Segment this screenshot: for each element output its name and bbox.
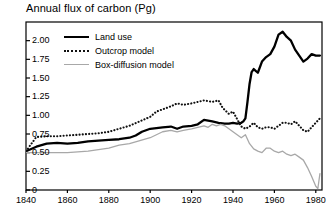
x-tick-label: 1860 xyxy=(47,196,87,205)
x-tick-label: 1900 xyxy=(130,196,170,205)
y-tick-label: 0 xyxy=(32,186,37,195)
series-line-box-diffusion-model xyxy=(26,124,320,188)
legend-label-outcrop-model: Outcrop model xyxy=(89,46,154,56)
y-tick-label: 0.25 xyxy=(32,167,50,176)
chart-legend: Land use Outcrop model Box-diffusion mod… xyxy=(64,30,214,72)
y-tick-label: 1.75 xyxy=(32,55,50,64)
legend-item-land-use: Land use xyxy=(64,30,214,44)
x-tick-label: 1980 xyxy=(296,196,335,205)
x-tick-label: 1840 xyxy=(6,196,46,205)
legend-label-box-diffusion-model: Box-diffusion model xyxy=(89,60,174,70)
x-tick-label: 1880 xyxy=(89,196,129,205)
legend-item-box-diffusion-model: Box-diffusion model xyxy=(64,58,214,72)
legend-line-dotted-icon xyxy=(64,46,89,56)
y-tick-label: 0.75 xyxy=(32,130,50,139)
legend-line-gray-icon xyxy=(64,60,89,70)
y-tick-label: 1.50 xyxy=(32,74,50,83)
y-tick-label: 0.50 xyxy=(32,148,50,157)
y-tick-label: 1.00 xyxy=(32,111,50,120)
legend-item-outcrop-model: Outcrop model xyxy=(64,44,214,58)
legend-line-solid-icon xyxy=(64,32,89,42)
legend-label-land-use: Land use xyxy=(89,32,132,42)
x-tick-label: 1960 xyxy=(254,196,294,205)
chart-figure: Annual flux of carbon (Pg) 00.250.500.75… xyxy=(0,0,335,222)
x-tick-label: 1920 xyxy=(172,196,212,205)
x-tick-label: 1940 xyxy=(213,196,253,205)
y-tick-label: 2.00 xyxy=(32,36,50,45)
y-tick-label: 1.25 xyxy=(32,92,50,101)
